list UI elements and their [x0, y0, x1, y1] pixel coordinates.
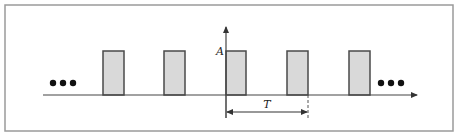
- dot: [70, 80, 76, 86]
- pulse-5: [349, 51, 370, 95]
- pulse-train-diagram: A T: [0, 0, 462, 138]
- continuation-dots-right: [378, 80, 404, 86]
- dot: [388, 80, 394, 86]
- dot: [60, 80, 66, 86]
- pulse-1: [103, 51, 124, 95]
- dot: [378, 80, 384, 86]
- diagram-canvas: A T: [0, 0, 462, 138]
- dot: [50, 80, 56, 86]
- period-label: T: [263, 98, 272, 111]
- pulse-3: [226, 51, 246, 95]
- pulse-2: [164, 51, 185, 95]
- pulse-4: [287, 51, 308, 95]
- amplitude-label: A: [215, 45, 224, 58]
- dot: [398, 80, 404, 86]
- continuation-dots-left: [50, 80, 76, 86]
- pulse-group: [103, 51, 370, 95]
